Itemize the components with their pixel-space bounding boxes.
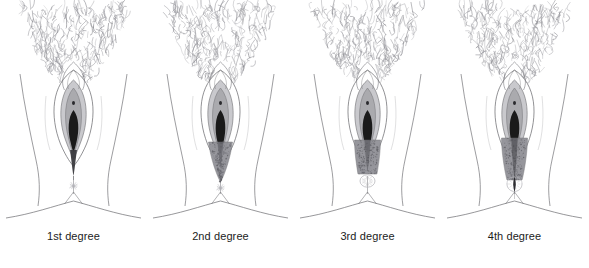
panel-label-first-degree: 1st degree (0, 230, 147, 243)
illustration-third-degree (294, 0, 441, 228)
anatomy-group (153, 0, 288, 218)
anatomy-group (6, 0, 141, 218)
illustration-second-degree (147, 0, 294, 228)
anatomy-group (447, 0, 582, 218)
panel-third-degree: 3rd degree (294, 0, 441, 268)
panel-fourth-degree: 4th degree (441, 0, 588, 268)
illustration-fourth-degree (441, 0, 588, 228)
panel-label-second-degree: 2nd degree (147, 230, 294, 243)
panel-label-third-degree: 3rd degree (294, 230, 441, 243)
panel-label-fourth-degree: 4th degree (441, 230, 588, 243)
perineal-tear-figure: 1st degree 2nd degree 3rd degree 4th deg… (0, 0, 589, 268)
panel-second-degree: 2nd degree (147, 0, 294, 268)
panel-first-degree: 1st degree (0, 0, 147, 268)
anatomy-group (300, 0, 435, 218)
illustration-first-degree (0, 0, 147, 228)
